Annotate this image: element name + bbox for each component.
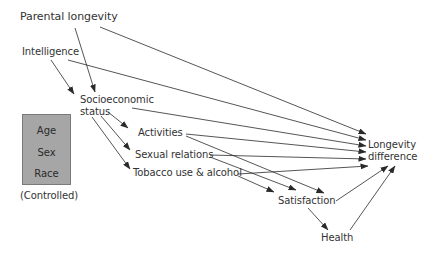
node-ses-line2: status — [80, 106, 110, 118]
controlled-race: Race — [23, 168, 70, 180]
edge-tobacco-to-satisfaction — [238, 176, 274, 192]
node-tobacco-alcohol: Tobacco use & alcohol — [133, 167, 242, 179]
edge-parental-to-ses — [75, 28, 95, 92]
path-diagram: Parental longevity Intelligence Socioeco… — [0, 0, 432, 255]
controlled-variables-box: Age Sex Race — [22, 114, 71, 185]
edge-satisfaction-to-longevity — [336, 166, 388, 201]
controlled-caption: (Controlled) — [20, 190, 78, 202]
node-ses-line1: Socioeconomic — [80, 94, 154, 106]
node-sexual-relations: Sexual relations — [135, 149, 213, 161]
edge-tobacco-to-longevity — [238, 166, 368, 174]
edge-ses-to-activities — [108, 112, 128, 128]
edge-health-to-longevity — [350, 166, 395, 230]
node-health: Health — [321, 232, 353, 244]
edge-ses-to-sexual — [101, 116, 130, 150]
node-intelligence: Intelligence — [22, 46, 79, 58]
node-satisfaction: Satisfaction — [278, 195, 336, 207]
edge-satisfaction-to-health — [308, 208, 328, 230]
node-longevity-line1: Longevity — [368, 139, 416, 151]
edge-sexual-to-longevity — [210, 155, 366, 159]
edge-intelligence-to-ses — [51, 60, 74, 94]
edge-parental-to-longevity — [100, 27, 366, 134]
node-parental-longevity: Parental longevity — [20, 11, 118, 23]
controlled-sex: Sex — [23, 147, 70, 159]
controlled-age: Age — [23, 125, 70, 137]
node-activities: Activities — [138, 127, 183, 139]
edge-activities-to-satisfaction — [186, 136, 324, 193]
node-longevity-line2: difference — [368, 151, 417, 163]
